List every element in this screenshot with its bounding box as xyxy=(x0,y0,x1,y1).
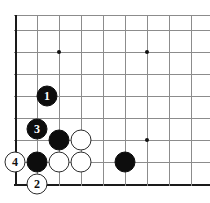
stone-black-c xyxy=(115,152,136,173)
stone-white-c xyxy=(71,152,92,173)
stone-white-b xyxy=(49,152,70,173)
board-stones: 1342 xyxy=(0,0,210,203)
stone-black-move-1: 1 xyxy=(37,86,58,107)
stone-move-number: 1 xyxy=(44,90,50,102)
stone-black-b xyxy=(27,152,48,173)
stone-move-number: 2 xyxy=(34,178,40,190)
stone-white-move-4: 4 xyxy=(5,152,26,173)
stone-black-move-3: 3 xyxy=(27,119,48,140)
stone-move-number: 3 xyxy=(34,123,40,135)
stone-move-number: 4 xyxy=(12,156,18,168)
stone-white-move-2: 2 xyxy=(27,174,48,195)
stone-black-a xyxy=(49,130,70,151)
stone-white-a xyxy=(71,130,92,151)
go-board-diagram: 1342 xyxy=(0,0,210,203)
